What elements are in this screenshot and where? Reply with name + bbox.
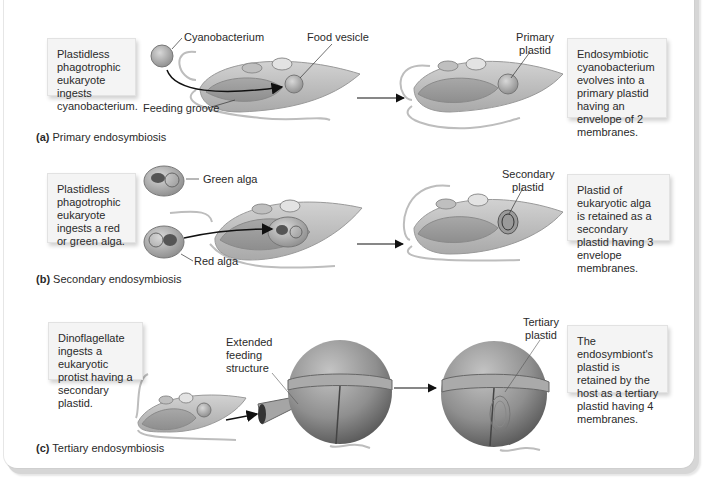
- panel-a-caption-text: Primary endosymbiosis: [53, 131, 167, 143]
- label-tertiary-plastid-line2: plastid: [525, 329, 557, 341]
- panel-c-caption: (c) Tertiary endosymbiosis: [36, 442, 164, 454]
- panel-b-caption: (b) Secondary endosymbiosis: [36, 273, 182, 285]
- green-alga-icon: [144, 166, 184, 196]
- label-tertiary-plastid: Tertiaryplastid: [521, 316, 561, 342]
- label-extended-line1: Extended: [226, 336, 272, 348]
- label-secondary-plastid-line2: plastid: [512, 181, 544, 193]
- dinoflagellate-feeding: [258, 340, 392, 448]
- label-primary-plastid-line1: Primary: [516, 31, 554, 43]
- cyanobacterium-icon: [151, 45, 173, 67]
- panel-c-left-description: Dinoflagellate ingests a eukaryotic prot…: [48, 322, 143, 380]
- label-food-vesicle: Food vesicle: [307, 31, 369, 44]
- panel-a-result-cell: [401, 58, 563, 128]
- label-red-alga: Red alga: [194, 255, 238, 268]
- label-green-alga: Green alga: [203, 173, 257, 186]
- panel-b-right-description: Plastid of eukaryotic alga is retained a…: [567, 174, 670, 241]
- label-extended-feeding-structure: Extendedfeedingstructure: [226, 336, 272, 375]
- panel-a-caption: (a) Primary endosymbiosis: [36, 131, 166, 143]
- label-extended-line2: feeding: [226, 349, 262, 361]
- panel-c-protist-cell: [136, 374, 246, 440]
- label-extended-line3: structure: [226, 362, 269, 374]
- panel-b-result-cell: [404, 186, 563, 261]
- label-cyanobacterium: Cyanobacterium: [184, 31, 264, 44]
- dinoflagellate-result: [441, 341, 549, 451]
- label-secondary-plastid: Secondaryplastid: [502, 168, 554, 194]
- panel-a-left-description: Plastidless phagotrophic eukaryote inges…: [47, 38, 136, 96]
- panel-a-right-description: Endosymbiotic cyanobacterium evolves int…: [567, 38, 667, 118]
- panel-c-caption-text: Tertiary endosymbiosis: [52, 442, 164, 454]
- panel-b-caption-text: Secondary endosymbiosis: [53, 273, 181, 285]
- label-feeding-groove: Feeding groove: [143, 102, 219, 115]
- panel-a-caption-letter: (a): [36, 131, 49, 143]
- label-tertiary-plastid-line1: Tertiary: [523, 316, 559, 328]
- panel-b-left-description: Plastidless phagotrophic eukaryote inges…: [47, 173, 136, 243]
- label-secondary-plastid-line1: Secondary: [502, 168, 555, 180]
- panel-c-right-description: The endosymbiont's plastid is retained b…: [567, 325, 668, 393]
- label-primary-plastid-line2: plastid: [519, 44, 551, 56]
- label-primary-plastid: Primaryplastid: [515, 31, 555, 57]
- panel-b-caption-letter: (b): [36, 273, 50, 285]
- panel-c-caption-letter: (c): [36, 442, 49, 454]
